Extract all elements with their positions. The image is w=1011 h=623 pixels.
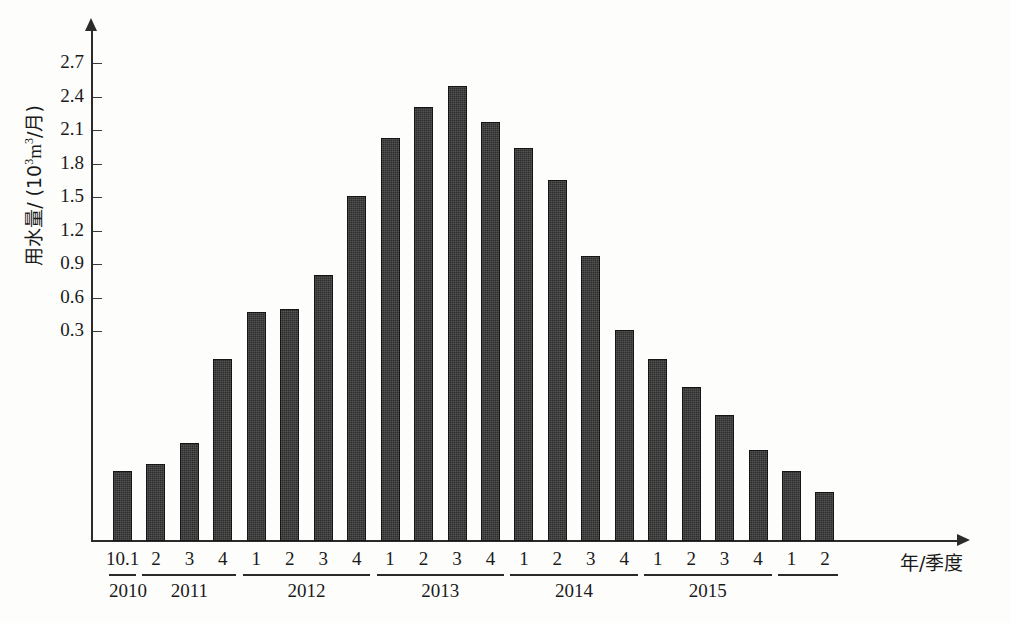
year-group-rule: [243, 574, 370, 576]
bar: [280, 309, 299, 541]
bar: [347, 196, 366, 541]
x-axis-quarter-label: 2: [805, 548, 845, 570]
bar: [715, 415, 734, 541]
bar: [113, 471, 132, 541]
bar: [749, 450, 768, 541]
year-group-rule: [109, 574, 136, 576]
bar-chart-figure: 用水量/ (103m3/月) 0.30.60.91.21.51.82.12.42…: [0, 0, 1011, 623]
x-axis-title: 年/季度: [900, 548, 963, 575]
bar: [314, 275, 333, 541]
year-group-label: 2012: [243, 580, 370, 602]
bar: [247, 312, 266, 541]
bar: [514, 148, 533, 541]
bar: [648, 359, 667, 541]
year-group-label: 2015: [644, 580, 771, 602]
year-group-rule: [510, 574, 637, 576]
bar: [213, 359, 232, 541]
bar: [548, 180, 567, 541]
bar: [581, 256, 600, 541]
year-group-rule: [142, 574, 236, 576]
year-group-label: 2013: [377, 580, 504, 602]
bar: [782, 471, 801, 541]
bar: [146, 464, 165, 541]
bar: [682, 387, 701, 541]
year-group-label: 2014: [510, 580, 637, 602]
bar: [414, 107, 433, 541]
year-group-label: 2010: [109, 580, 136, 602]
year-group-rule: [377, 574, 504, 576]
bar: [615, 330, 634, 541]
year-group-label: 2011: [142, 580, 236, 602]
bar: [448, 86, 467, 541]
year-group-rule: [644, 574, 771, 576]
bar: [481, 122, 500, 541]
bar-series: [0, 0, 1011, 623]
bar: [381, 138, 400, 541]
year-group-rule: [778, 574, 838, 576]
bar: [815, 492, 834, 541]
bar: [180, 443, 199, 541]
